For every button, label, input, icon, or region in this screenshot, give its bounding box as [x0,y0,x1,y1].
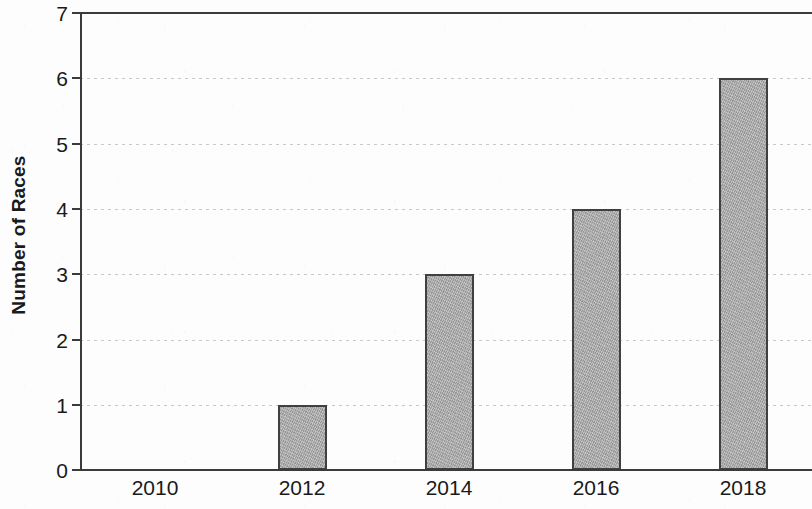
gridline [80,144,812,145]
x-tick-label-2014: 2014 [389,477,509,498]
y-tick-label: 6 [38,68,68,89]
x-tick-label-2010: 2010 [95,477,215,498]
bar-2016[interactable] [572,209,621,470]
gridline [80,209,812,210]
y-axis-line [80,13,82,471]
y-tick-label: 7 [38,3,68,24]
y-tick-label: 1 [38,395,68,416]
bar-2012[interactable] [278,405,327,470]
gridline [80,78,812,79]
y-axis-tick-labels: 7 6 5 4 3 2 1 0 [34,0,68,509]
x-tick-label-2018: 2018 [683,477,803,498]
y-tick-label: 4 [38,199,68,220]
x-axis-line [80,469,812,471]
y-tick-label: 5 [38,134,68,155]
y-axis-title: Number of Races [0,0,38,470]
x-tick-label-2012: 2012 [242,477,362,498]
y-axis-title-text: Number of Races [8,155,30,314]
bar-chart-figure: Number of Races 7 6 5 4 3 2 1 0 2010 [0,0,812,509]
plot-area [80,13,812,470]
bar-2018[interactable] [719,78,768,470]
y-tick-label: 0 [38,460,68,481]
x-tick-label-2016: 2016 [536,477,656,498]
bar-2014[interactable] [425,274,474,470]
plot-top-border [80,12,812,14]
y-tick-label: 2 [38,330,68,351]
y-tick-label: 3 [38,264,68,285]
